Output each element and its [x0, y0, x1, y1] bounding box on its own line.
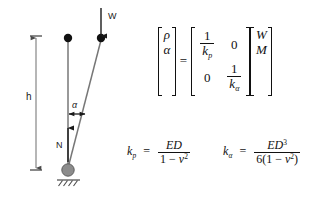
h-label: h [26, 92, 32, 102]
kalpha-numerator: ED3 [265, 139, 289, 152]
rhs-row-0: W [256, 28, 267, 43]
vertical-rod-top-node [64, 34, 72, 42]
matrix-cell-10: 0 [204, 70, 211, 86]
n-label: N [56, 141, 63, 150]
lhs-row-1: α [164, 43, 171, 58]
matrix-cell-11-numerator: 1 [229, 62, 240, 76]
kp-denominator: 1 − v2 [158, 152, 190, 166]
matrix-cell-11-denominator: kα [227, 76, 241, 93]
kalpha-symbol-sub: α [229, 151, 233, 160]
rhs-vector: W M [254, 27, 268, 96]
kp-equals: = [139, 144, 154, 159]
matrix-equation: ρ α = 1 kp 0 0 1 kα W [158, 27, 272, 100]
kp-fraction: ED 1 − v2 [158, 139, 190, 166]
formula-kalpha: kα = ED3 6(1 − v2) [223, 139, 301, 166]
matrix-cell-00-numerator: 1 [202, 29, 213, 43]
kp-symbol-base: k [127, 144, 132, 158]
kp-symbol-sub: p [133, 151, 137, 160]
alpha-label: α [72, 101, 77, 110]
kalpha-denominator: 6(1 − v2) [254, 152, 300, 166]
matrix-cell-01: 0 [231, 37, 238, 53]
kalpha-equals: = [235, 144, 250, 159]
figure-canvas: h W N α ρ α = 1 kp 0 0 1 kα [0, 0, 316, 199]
kp-numerator: ED [164, 139, 184, 152]
matrix-cell-00: 1 kp [200, 29, 214, 60]
ground-pivot-node [62, 164, 74, 176]
matrix-cell-00-denominator: kp [200, 43, 214, 60]
lhs-vector: ρ α [162, 27, 172, 96]
w-label: W [108, 12, 117, 21]
rhs-bracket-right [268, 27, 272, 96]
formula-kp: kp = ED 1 − v2 [127, 139, 191, 166]
compliance-matrix: 1 kp 0 0 1 kα [195, 27, 246, 96]
kalpha-fraction: ED3 6(1 − v2) [254, 139, 300, 166]
matrix-cell-11: 1 kα [227, 62, 241, 93]
lhs-row-0: ρ [164, 28, 170, 43]
h-dimension-line [30, 36, 42, 170]
hatched-ground-support [57, 180, 80, 186]
kalpha-symbol-base: k [223, 144, 228, 158]
rhs-row-1: M [256, 43, 267, 58]
equals-sign: = [176, 27, 191, 96]
